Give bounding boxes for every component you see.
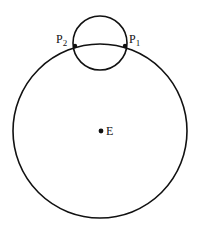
point-p2 — [73, 44, 77, 48]
small-circle — [73, 16, 127, 70]
label-p2: P2 — [56, 32, 67, 48]
label-p1: P1 — [129, 32, 140, 48]
point-p1 — [123, 44, 127, 48]
label-e: E — [106, 124, 113, 138]
diagram-canvas: P2 P1 E — [0, 0, 198, 234]
center-point-e — [99, 129, 104, 134]
